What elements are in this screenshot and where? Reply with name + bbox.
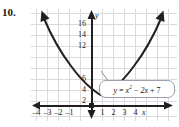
x-tick-3: 3: [120, 109, 129, 117]
equation-constant: 7: [156, 86, 160, 95]
x-axis-label: x: [142, 109, 146, 117]
y-tick-12: 12: [73, 42, 86, 50]
x-tick-4: 4: [131, 109, 140, 117]
equation-minus: −: [134, 86, 139, 95]
equation-lhs: y: [114, 86, 118, 95]
x-tick-neg1: –1: [65, 109, 74, 117]
y-axis: [88, 10, 96, 119]
equation-linear-term: 2x: [140, 86, 148, 95]
coordinate-plane: 16 14 12 6 4 2 –4 –3 –2 –1 1 2 3 4 y x: [31, 9, 177, 121]
y-tick-14: 14: [73, 31, 86, 39]
graph-svg: [31, 9, 177, 121]
y-tick-4: 4: [73, 86, 86, 94]
problem-number: 10.: [2, 6, 16, 18]
grid-lines: [31, 9, 177, 121]
x-tick-2: 2: [109, 109, 118, 117]
y-tick-2: 2: [73, 97, 86, 105]
exercise-figure: 10.: [0, 0, 179, 127]
x-tick-1: 1: [98, 109, 107, 117]
x-tick-neg3: –3: [43, 109, 52, 117]
y-tick-16: 16: [73, 20, 86, 28]
equation-plus: +: [150, 86, 155, 95]
equation-equals: =: [119, 86, 124, 95]
origin-tick: [89, 103, 94, 108]
equation-callout: y = x2 − 2x + 7: [99, 80, 175, 98]
x-tick-neg4: –4: [32, 109, 41, 117]
equation-exponent: 2: [129, 84, 132, 90]
x-tick-neg2: –2: [54, 109, 63, 117]
equation-label: y = x2 − 2x + 7: [114, 83, 161, 95]
y-tick-6: 6: [73, 75, 86, 83]
y-axis-label: y: [95, 12, 99, 20]
